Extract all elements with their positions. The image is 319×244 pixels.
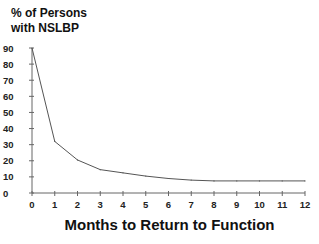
x-tick-label: 4 — [120, 199, 126, 210]
data-point — [304, 180, 305, 181]
data-point — [259, 180, 260, 181]
y-tick-label: 50 — [3, 107, 14, 118]
axes — [32, 48, 305, 193]
y-tick-label: 0 — [3, 188, 8, 199]
data-point — [31, 47, 32, 48]
data-point — [168, 178, 169, 179]
data-point — [77, 159, 78, 160]
data-point — [213, 180, 214, 181]
y-tick-label: 10 — [3, 171, 14, 182]
series — [31, 47, 305, 181]
y-tick-label: 70 — [3, 75, 14, 86]
series-line — [32, 48, 305, 181]
data-point — [145, 175, 146, 176]
data-point — [122, 172, 123, 173]
x-tick-label: 8 — [211, 199, 216, 210]
data-point — [191, 180, 192, 181]
y-tick-label: 60 — [3, 91, 14, 102]
x-tick-label: 10 — [254, 199, 265, 210]
x-tick-label: 9 — [234, 199, 239, 210]
y-tick-label: 20 — [3, 155, 14, 166]
x-tick-label: 3 — [98, 199, 103, 210]
y-tick-label: 90 — [3, 43, 14, 54]
x-tick-label: 7 — [189, 199, 194, 210]
x-tick-label: 6 — [166, 199, 171, 210]
data-point — [54, 141, 55, 142]
x-tick-label: 1 — [52, 199, 58, 210]
y-tick-label: 30 — [3, 139, 14, 150]
y-tick-label: 80 — [3, 59, 14, 70]
x-tick-label: 2 — [75, 199, 80, 210]
x-tick-label: 5 — [143, 199, 149, 210]
ticks: 01020304050607080900123456789101112 — [3, 43, 310, 211]
x-tick-label: 12 — [300, 199, 311, 210]
x-tick-label: 11 — [277, 199, 288, 210]
y-tick-label: 40 — [3, 123, 14, 134]
line-chart: 01020304050607080900123456789101112 — [0, 0, 319, 244]
data-point — [282, 180, 283, 181]
data-point — [236, 180, 237, 181]
data-point — [100, 169, 101, 170]
x-axis-label: Months to Return to Function — [0, 216, 319, 233]
x-tick-label: 0 — [29, 199, 34, 210]
